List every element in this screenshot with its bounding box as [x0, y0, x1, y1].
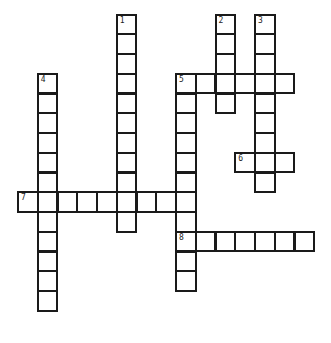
- clue-number: 8: [179, 233, 184, 242]
- crossword-cell[interactable]: [37, 290, 59, 312]
- crossword-cell[interactable]: [195, 231, 217, 253]
- crossword-cell[interactable]: 6: [234, 152, 256, 174]
- crossword-cell[interactable]: [175, 152, 197, 174]
- crossword-cell[interactable]: [116, 191, 138, 213]
- clue-number: 5: [179, 75, 184, 84]
- crossword-cell[interactable]: [175, 191, 197, 213]
- crossword-cell[interactable]: 4: [37, 73, 59, 95]
- crossword-cell[interactable]: [57, 191, 79, 213]
- crossword-cell[interactable]: [37, 251, 59, 273]
- crossword-cell[interactable]: [294, 231, 316, 253]
- crossword-cell[interactable]: [136, 191, 158, 213]
- crossword-cell[interactable]: [215, 93, 237, 115]
- crossword-cell[interactable]: [37, 211, 59, 233]
- crossword-cell[interactable]: [37, 172, 59, 194]
- clue-number: 1: [120, 16, 125, 25]
- crossword-cell[interactable]: [195, 73, 217, 95]
- crossword-cell[interactable]: [215, 231, 237, 253]
- crossword-cell[interactable]: [116, 152, 138, 174]
- crossword-cell[interactable]: [37, 191, 59, 213]
- crossword-cell[interactable]: 1: [116, 14, 138, 36]
- clue-number: 6: [238, 154, 243, 163]
- crossword-cell[interactable]: [254, 152, 276, 174]
- crossword-cell[interactable]: [175, 93, 197, 115]
- crossword-cell[interactable]: [155, 191, 177, 213]
- crossword-cell[interactable]: [175, 112, 197, 134]
- crossword-cell[interactable]: [234, 73, 256, 95]
- crossword-cell[interactable]: [254, 33, 276, 55]
- crossword-cell[interactable]: [254, 172, 276, 194]
- crossword-cell[interactable]: [175, 172, 197, 194]
- crossword-cell[interactable]: 2: [215, 14, 237, 36]
- crossword-cell[interactable]: [254, 132, 276, 154]
- crossword-cell[interactable]: 5: [175, 73, 197, 95]
- crossword-cell[interactable]: [37, 93, 59, 115]
- clue-number: 7: [21, 193, 26, 202]
- crossword-cell[interactable]: [274, 73, 296, 95]
- crossword-cell[interactable]: 7: [17, 191, 39, 213]
- crossword-cell[interactable]: [175, 132, 197, 154]
- crossword-cell[interactable]: 3: [254, 14, 276, 36]
- crossword-cell[interactable]: [116, 53, 138, 75]
- crossword-cell[interactable]: [116, 93, 138, 115]
- crossword-cell[interactable]: [116, 73, 138, 95]
- crossword-cell[interactable]: 8: [175, 231, 197, 253]
- crossword-cell[interactable]: [116, 211, 138, 233]
- crossword-cell[interactable]: [37, 112, 59, 134]
- crossword-cell[interactable]: [274, 152, 296, 174]
- crossword-cell[interactable]: [254, 93, 276, 115]
- clue-number: 3: [258, 16, 263, 25]
- crossword-cell[interactable]: [116, 172, 138, 194]
- crossword-cell[interactable]: [116, 112, 138, 134]
- crossword-grid: 12345867: [0, 0, 331, 343]
- crossword-cell[interactable]: [175, 211, 197, 233]
- crossword-cell[interactable]: [234, 231, 256, 253]
- crossword-cell[interactable]: [76, 191, 98, 213]
- crossword-cell[interactable]: [215, 33, 237, 55]
- crossword-cell[interactable]: [116, 33, 138, 55]
- crossword-cell[interactable]: [254, 73, 276, 95]
- crossword-cell[interactable]: [37, 132, 59, 154]
- crossword-cell[interactable]: [215, 73, 237, 95]
- crossword-cell[interactable]: [116, 132, 138, 154]
- crossword-cell[interactable]: [37, 270, 59, 292]
- crossword-cell[interactable]: [254, 231, 276, 253]
- crossword-cell[interactable]: [37, 152, 59, 174]
- crossword-cell[interactable]: [254, 112, 276, 134]
- crossword-cell[interactable]: [215, 53, 237, 75]
- crossword-cell[interactable]: [96, 191, 118, 213]
- crossword-cell[interactable]: [37, 231, 59, 253]
- crossword-cell[interactable]: [175, 270, 197, 292]
- clue-number: 2: [219, 16, 224, 25]
- crossword-cell[interactable]: [274, 231, 296, 253]
- clue-number: 4: [41, 75, 46, 84]
- crossword-cell[interactable]: [254, 53, 276, 75]
- crossword-cell[interactable]: [175, 251, 197, 273]
